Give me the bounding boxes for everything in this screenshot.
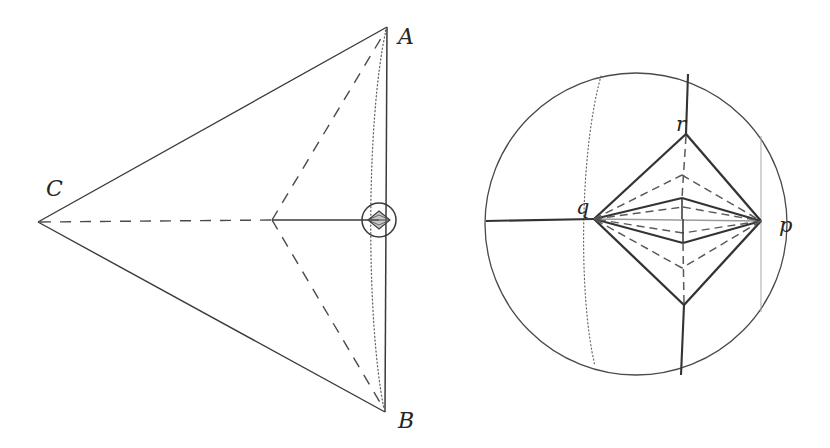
mid-lens-upper-p xyxy=(682,198,761,221)
triangle-edge-CB xyxy=(38,222,385,412)
label-C: C xyxy=(46,176,63,201)
outer-lens-p-s xyxy=(684,221,761,305)
dashed-central-axis-upper xyxy=(682,136,686,198)
figure-canvas: A B C xyxy=(0,0,830,448)
equator-left-segment xyxy=(486,219,594,221)
mid-lens-q-upper xyxy=(594,198,682,219)
right-diagram: p q r xyxy=(485,73,792,375)
dashed-edge-mid-A xyxy=(272,30,386,220)
outer-lens-r-p xyxy=(686,134,761,221)
figure-root: A B C xyxy=(0,0,830,448)
label-B: B xyxy=(397,408,414,433)
equator-core-segment xyxy=(594,219,761,221)
spoke-top xyxy=(686,74,688,134)
dashed-axis-C-mid xyxy=(40,220,272,222)
label-q: q xyxy=(576,195,589,219)
label-p: p xyxy=(779,213,792,237)
mid-lens-p-lower xyxy=(683,221,761,243)
left-diagram: A B C xyxy=(38,24,414,433)
spoke-bottom xyxy=(681,305,684,375)
dashed-lens-p-inner-lower xyxy=(682,221,761,268)
outer-lens-q-r xyxy=(594,134,686,219)
triangle-edge-CA xyxy=(38,27,387,222)
dashed-central-axis-lower xyxy=(683,243,684,303)
label-A: A xyxy=(396,24,414,49)
